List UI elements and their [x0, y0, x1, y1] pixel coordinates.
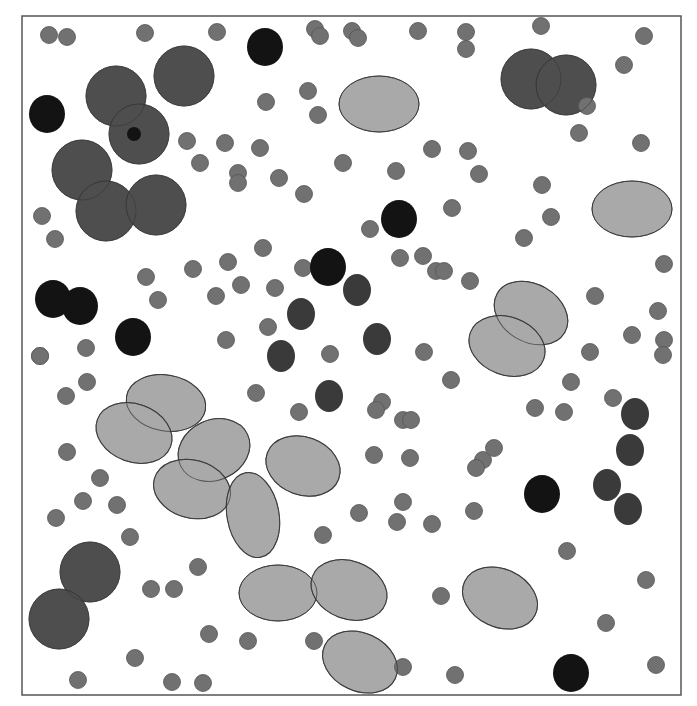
small-circle: [563, 374, 580, 391]
black-circle: [247, 28, 283, 66]
small-circle: [351, 505, 368, 522]
small-circle: [527, 400, 544, 417]
small-circle: [217, 135, 234, 152]
small-circle: [534, 177, 551, 194]
small-circle: [240, 633, 257, 650]
small-circle: [179, 133, 196, 150]
small-circle: [59, 29, 76, 46]
small-circle: [164, 674, 181, 691]
black-circle: [115, 318, 151, 356]
black-circle: [127, 127, 141, 141]
small-circle: [59, 444, 76, 461]
small-circle: [648, 657, 665, 674]
small-circle: [48, 510, 65, 527]
small-circle: [656, 256, 673, 273]
dark-blob: [315, 380, 343, 412]
small-circle: [185, 261, 202, 278]
small-circle: [92, 470, 109, 487]
dark-blob: [616, 434, 644, 466]
small-circle: [533, 18, 550, 35]
small-circle: [433, 588, 450, 605]
small-circle: [636, 28, 653, 45]
small-circle: [109, 497, 126, 514]
small-circle: [466, 503, 483, 520]
small-circle: [218, 332, 235, 349]
small-circle: [34, 208, 51, 225]
small-circle: [335, 155, 352, 172]
dark-blob: [287, 298, 315, 330]
small-circle: [416, 344, 433, 361]
small-circle: [192, 155, 209, 172]
small-circle: [296, 186, 313, 203]
small-circle: [458, 41, 475, 58]
small-circle: [47, 231, 64, 248]
small-circle: [443, 372, 460, 389]
small-circle: [395, 494, 412, 511]
small-circle: [75, 493, 92, 510]
black-circle: [524, 475, 560, 513]
small-circle: [208, 288, 225, 305]
dark-blob: [267, 340, 295, 372]
small-circle: [543, 209, 560, 226]
small-circle: [137, 25, 154, 42]
small-circle: [220, 254, 237, 271]
small-circle: [267, 280, 284, 297]
small-circle: [587, 288, 604, 305]
small-circle: [166, 581, 183, 598]
small-circle: [78, 340, 95, 357]
small-circle: [310, 107, 327, 124]
small-circle: [598, 615, 615, 632]
small-circle: [571, 125, 588, 142]
dark-blob: [621, 398, 649, 430]
small-circle: [195, 675, 212, 692]
small-circle: [458, 24, 475, 41]
black-circle: [381, 200, 417, 238]
small-circle: [582, 344, 599, 361]
small-circle: [41, 27, 58, 44]
small-circle: [392, 250, 409, 267]
small-circle: [460, 143, 477, 160]
dark-blob: [593, 469, 621, 501]
small-circle: [462, 273, 479, 290]
small-circle: [70, 672, 87, 689]
small-circle: [436, 263, 453, 280]
small-circle: [230, 175, 247, 192]
small-circle: [624, 327, 641, 344]
small-circle: [209, 24, 226, 41]
small-circle: [260, 319, 277, 336]
small-circle: [233, 277, 250, 294]
small-circle: [322, 346, 339, 363]
small-circle: [201, 626, 218, 643]
small-circle: [32, 348, 49, 365]
small-circle: [271, 170, 288, 187]
small-circle: [143, 581, 160, 598]
small-circle: [312, 28, 329, 45]
small-circle: [516, 230, 533, 247]
black-circle: [29, 95, 65, 133]
small-circle: [471, 166, 488, 183]
small-circle: [366, 447, 383, 464]
small-circle: [616, 57, 633, 74]
small-circle: [402, 450, 419, 467]
small-circle: [248, 385, 265, 402]
small-circle: [388, 163, 405, 180]
small-circle: [138, 269, 155, 286]
black-circle: [553, 654, 589, 692]
black-circle: [62, 287, 98, 325]
diagram-canvas: [0, 0, 697, 706]
small-circle: [486, 440, 503, 457]
small-circle: [389, 514, 406, 531]
small-circle: [295, 260, 312, 277]
small-circle: [410, 23, 427, 40]
small-circle: [605, 390, 622, 407]
small-circle: [415, 248, 432, 265]
small-circle: [79, 374, 96, 391]
small-circle: [306, 633, 323, 650]
small-circle: [315, 527, 332, 544]
black-circle: [310, 248, 346, 286]
small-circle: [255, 240, 272, 257]
small-circle: [424, 516, 441, 533]
small-circle: [444, 200, 461, 217]
small-circle: [300, 83, 317, 100]
small-circle: [252, 140, 269, 157]
